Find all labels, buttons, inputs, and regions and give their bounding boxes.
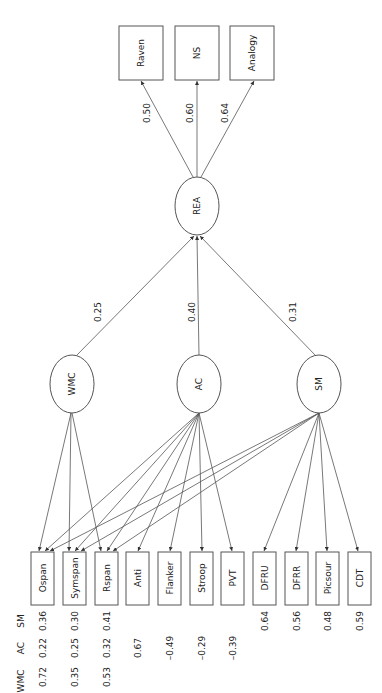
wmc-loadings-paths (39, 413, 101, 551)
svg-text:0.64: 0.64 (220, 103, 230, 123)
path-ac-rea (197, 236, 199, 356)
indicator-ns: NS (175, 26, 219, 80)
svg-text:CDT: CDT (355, 568, 365, 587)
svg-text:0.53: 0.53 (102, 667, 112, 687)
svg-text:0.41: 0.41 (102, 611, 112, 631)
indicator-dfru: DFRU (253, 552, 276, 605)
svg-text:0.31: 0.31 (288, 302, 298, 322)
factor-path-labels: 0.25 0.40 0.31 (93, 302, 298, 322)
indicator-cdt: CDT (348, 552, 371, 605)
svg-text:0.25: 0.25 (93, 302, 103, 322)
svg-text:0.72: 0.72 (38, 667, 48, 687)
svg-text:DFRU: DFRU (260, 566, 270, 591)
factor-sm: SM (297, 355, 341, 413)
path-rea-raven (141, 81, 193, 177)
svg-text:0.35: 0.35 (70, 667, 80, 687)
svg-text:AC: AC (194, 378, 204, 390)
indicator-flanker: Flanker (158, 552, 181, 605)
indicator-dfrr: DFRR (285, 552, 308, 605)
svg-text:0.50: 0.50 (142, 103, 152, 123)
svg-text:Symspan: Symspan (70, 557, 80, 598)
svg-text:0.22: 0.22 (38, 638, 48, 658)
svg-text:–0.29: –0.29 (197, 635, 207, 660)
svg-text:0.60: 0.60 (185, 103, 195, 123)
loadings-header: WMC AC SM (16, 614, 26, 692)
svg-text:0.59: 0.59 (355, 611, 365, 631)
svg-text:0.48: 0.48 (323, 611, 333, 631)
svg-text:0.36: 0.36 (38, 611, 48, 631)
indicator-ospan: Ospan (31, 552, 54, 605)
indicator-analogy: Analogy (230, 26, 274, 80)
svg-text:Picsour: Picsour (323, 562, 333, 595)
svg-text:WMC: WMC (16, 670, 26, 693)
svg-text:Ospan: Ospan (38, 564, 48, 593)
indicator-raven: Raven (119, 26, 163, 80)
path-sm-rea (200, 236, 316, 356)
factor-rea: REA (175, 177, 219, 235)
top-loadings: 0.50 0.60 0.64 (142, 103, 230, 123)
bottom-indicators: Ospan Symspan Rspan Anti Flanker Stroop … (31, 552, 371, 605)
indicator-picsour: Picsour (316, 552, 339, 605)
indicator-anti: Anti (126, 552, 149, 605)
top-indicators: Raven NS Analogy (119, 26, 274, 80)
rea-to-top-paths (141, 81, 254, 177)
indicator-stroop: Stroop (190, 552, 213, 605)
indicator-rspan: Rspan (95, 552, 118, 605)
svg-text:–0.49: –0.49 (165, 635, 175, 660)
svg-text:Rspan: Rspan (102, 564, 112, 592)
svg-text:Anti: Anti (133, 569, 143, 587)
svg-text:0.25: 0.25 (70, 638, 80, 658)
ac-loadings-paths (45, 413, 232, 551)
svg-text:WMC: WMC (67, 373, 77, 396)
svg-text:Stroop: Stroop (197, 563, 207, 593)
svg-text:DFRR: DFRR (292, 566, 302, 591)
indicator-pvt: PVT (221, 552, 244, 605)
svg-text:Flanker: Flanker (165, 561, 175, 594)
svg-text:0.32: 0.32 (102, 638, 112, 658)
loadings-values: 0.72 0.22 0.36 0.35 0.25 0.30 0.53 0.32 … (38, 611, 365, 687)
sem-diagram: Raven NS Analogy 0.50 0.60 0.64 REA 0.25… (0, 0, 382, 693)
svg-text:SM: SM (314, 377, 324, 390)
svg-text:0.56: 0.56 (292, 611, 302, 631)
svg-text:REA: REA (192, 196, 202, 215)
svg-text:0.30: 0.30 (70, 611, 80, 631)
path-wmc-rea (76, 236, 194, 356)
factor-ac: AC (177, 355, 221, 413)
svg-text:AC: AC (16, 642, 26, 654)
svg-text:0.40: 0.40 (187, 302, 197, 322)
factor-wmc: WMC (50, 355, 94, 413)
path-rea-analogy (201, 81, 254, 177)
factor-to-rea-paths (76, 236, 316, 356)
svg-text:–0.39: –0.39 (228, 635, 238, 660)
svg-text:0.64: 0.64 (260, 611, 270, 631)
svg-text:PVT: PVT (228, 569, 238, 587)
svg-text:0.67: 0.67 (133, 638, 143, 658)
svg-text:Analogy: Analogy (247, 34, 257, 71)
svg-text:SM: SM (16, 614, 26, 627)
svg-text:NS: NS (192, 46, 202, 59)
svg-text:Raven: Raven (136, 39, 146, 67)
indicator-symspan: Symspan (63, 552, 86, 605)
